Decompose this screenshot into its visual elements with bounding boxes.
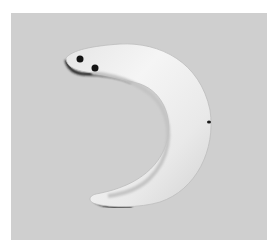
crescent-body xyxy=(66,44,211,207)
photo-background: Pale curved crescent ornament with two d… xyxy=(11,13,267,240)
edge-mark xyxy=(207,121,211,124)
crescent-pendant xyxy=(0,0,279,250)
hole-icon xyxy=(92,65,99,72)
hole-icon xyxy=(77,56,84,63)
